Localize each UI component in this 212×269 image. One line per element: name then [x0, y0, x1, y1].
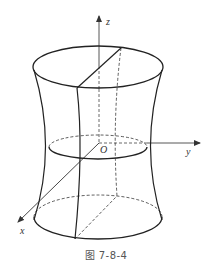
right-silhouette: [151, 70, 163, 220]
hyperboloid-diagram: z y x O: [0, 0, 212, 269]
left-silhouette: [34, 70, 46, 220]
origin-label: O: [100, 144, 107, 155]
waist-ellipse-front: [49, 147, 147, 159]
x-axis: [18, 143, 99, 222]
top-ellipse: [33, 46, 163, 88]
z-axis-label: z: [105, 16, 110, 27]
waist-ellipse-back: [49, 135, 147, 147]
figure-caption: 图 7-8-4: [0, 247, 212, 262]
back-generatrix: [115, 48, 121, 196]
bottom-ruling-chord: [75, 196, 117, 239]
y-axis-label: y: [185, 146, 191, 157]
bottom-ellipse-front: [34, 217, 162, 239]
bottom-ellipse-back: [34, 195, 162, 217]
x-axis-label: x: [19, 225, 25, 236]
